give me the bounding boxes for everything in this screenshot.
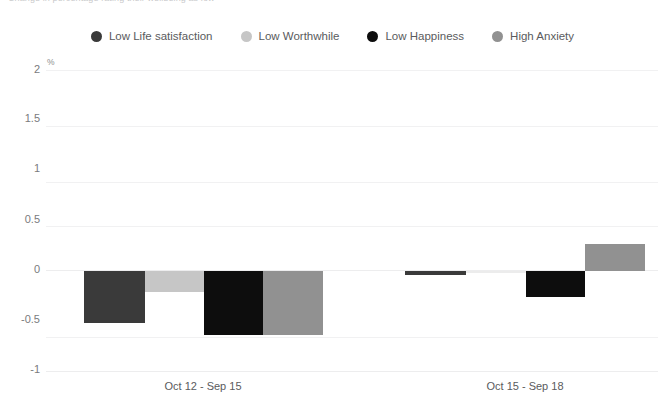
x-tick-label-oct15-sep18: Oct 15 - Sep 18 xyxy=(445,380,605,392)
y-tick-label-0: 0 xyxy=(0,263,40,275)
bar-low-happiness-oct15-sep18[interactable] xyxy=(526,271,585,297)
bar-high-anxiety-oct12-sep15[interactable] xyxy=(263,271,323,335)
bar-low-life-satisfaction-oct15-sep18[interactable] xyxy=(405,271,466,275)
x-tick-label-oct12-sep15: Oct 12 - Sep 15 xyxy=(123,380,283,392)
bar-low-life-satisfaction-oct12-sep15[interactable] xyxy=(84,271,145,323)
gridline-neg1 xyxy=(46,371,658,372)
y-tick-label-2: 2 xyxy=(0,63,40,75)
gridline-1_5 xyxy=(46,126,658,127)
y-tick-label-1_5: 1.5 xyxy=(0,112,40,124)
y-tick-label-1: 1 xyxy=(0,162,40,174)
y-axis-unit-label: % xyxy=(47,57,55,67)
bar-chart-plot-area: % 2 1.5 1 0.5 0 -0.5 -1 Oct 12 - Sep 15 … xyxy=(0,0,665,419)
bar-low-happiness-oct12-sep15[interactable] xyxy=(204,271,263,335)
gridline-0_5 xyxy=(46,226,658,227)
gridline-2 xyxy=(46,70,658,71)
y-tick-label-neg0_5: -0.5 xyxy=(0,313,40,325)
gridline-neg0_5 xyxy=(46,337,658,338)
y-tick-label-0_5: 0.5 xyxy=(0,213,40,225)
bar-low-worthwhile-oct15-sep18[interactable] xyxy=(466,271,526,273)
y-tick-label-neg1: -1 xyxy=(0,363,40,375)
bar-low-worthwhile-oct12-sep15[interactable] xyxy=(145,271,204,292)
bar-high-anxiety-oct15-sep18[interactable] xyxy=(585,244,645,271)
gridline-1 xyxy=(46,182,658,183)
